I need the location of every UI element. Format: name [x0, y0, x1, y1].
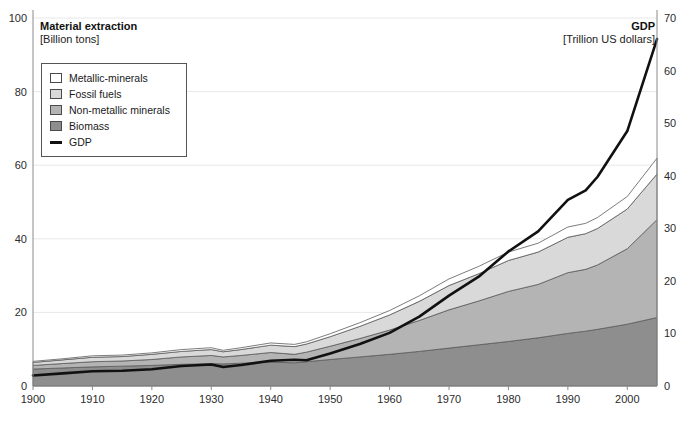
legend-swatch-icon — [50, 89, 62, 99]
legend-swatch-icon — [50, 73, 62, 83]
y2-axis-tick-label: 70 — [664, 12, 676, 24]
legend-line-icon — [50, 141, 62, 144]
y2-axis-tick-label: 0 — [664, 380, 670, 392]
x-axis-tick-label: 1970 — [437, 393, 461, 405]
page-title: Material extraction — [40, 20, 137, 33]
right-axis-title: GDP — [563, 20, 655, 33]
y2-axis-tick-label: 30 — [664, 222, 676, 234]
right-axis-title-block: GDP [Trillion US dollars] — [563, 20, 655, 46]
x-axis-tick-label: 2000 — [615, 393, 639, 405]
y-axis-tick-label: 0 — [21, 380, 27, 392]
legend-item: Metallic-minerals — [50, 70, 179, 86]
x-axis-tick-label: 1930 — [199, 393, 223, 405]
legend-item-label: GDP — [69, 136, 92, 148]
legend-item-label: Metallic-minerals — [69, 72, 148, 84]
legend-item: Non-metallic minerals — [50, 102, 179, 118]
legend-item: Biomass — [50, 118, 179, 134]
x-axis-tick-label: 1940 — [258, 393, 282, 405]
legend-item-label: Non-metallic minerals — [69, 104, 170, 116]
y-axis-tick-label: 100 — [9, 12, 27, 24]
legend-item-label: Biomass — [69, 120, 109, 132]
x-axis-tick-label: 1920 — [140, 393, 164, 405]
legend-item: GDP — [50, 134, 179, 150]
y2-axis-tick-label: 20 — [664, 275, 676, 287]
y-axis-tick-label: 40 — [15, 233, 27, 245]
x-axis-tick-label: 1900 — [21, 393, 45, 405]
x-axis-tick-label: 1910 — [80, 393, 104, 405]
left-axis-title-block: Material extraction [Billion tons] — [40, 20, 137, 46]
x-axis-tick-label: 1950 — [318, 393, 342, 405]
y-axis-tick-label: 80 — [15, 86, 27, 98]
y-axis-tick-label: 60 — [15, 159, 27, 171]
x-axis-tick-label: 1990 — [556, 393, 580, 405]
y2-axis-tick-label: 60 — [664, 65, 676, 77]
legend-swatch-icon — [50, 121, 62, 131]
left-axis-unit: [Billion tons] — [40, 33, 137, 46]
legend-swatch-icon — [50, 105, 62, 115]
y-axis-tick-label: 20 — [15, 306, 27, 318]
x-axis-tick-label: 1980 — [496, 393, 520, 405]
legend-item-label: Fossil fuels — [69, 88, 122, 100]
chart-legend: Metallic-mineralsFossil fuelsNon-metalli… — [41, 63, 187, 157]
x-axis-tick-label: 1960 — [377, 393, 401, 405]
y2-axis-tick-label: 10 — [664, 327, 676, 339]
chart-container: 0204060801000102030405060701900191019201… — [0, 0, 691, 423]
legend-item: Fossil fuels — [50, 86, 179, 102]
y2-axis-tick-label: 40 — [664, 170, 676, 182]
y2-axis-tick-label: 50 — [664, 117, 676, 129]
right-axis-unit: [Trillion US dollars] — [563, 33, 655, 46]
